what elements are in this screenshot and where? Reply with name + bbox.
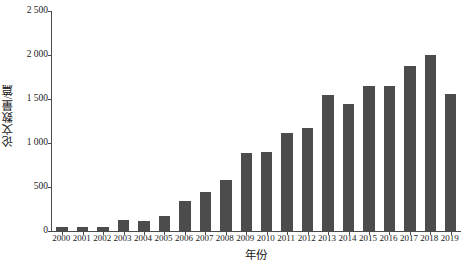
x-tick-label: 2014 [339,234,357,243]
y-axis-tick-labels: 05001 0001 5002 0002 500 [16,0,51,240]
x-tick-label: 2002 [93,234,111,243]
bar [302,128,313,231]
bar [363,86,374,231]
x-tick-label: 2019 [441,234,459,243]
x-tick-label: 2013 [318,234,336,243]
y-tick-label: 1 000 [27,138,48,148]
x-axis-tick-labels: 2000200120022003200420052006200720082009… [51,234,461,248]
x-tick-label: 2005 [154,234,172,243]
bar [138,221,149,231]
x-tick-label: 2008 [216,234,234,243]
x-tick-label: 2018 [420,234,438,243]
plot-area [51,11,461,232]
bar [425,55,436,231]
bar [343,104,354,231]
bar [281,133,292,231]
x-tick-label: 2017 [400,234,418,243]
y-axis-title-text: 论文数量/篇 [3,84,15,147]
x-tick-label: 2006 [175,234,193,243]
x-tick-label: 2010 [257,234,275,243]
bar [179,201,190,231]
x-tick-label: 2011 [277,234,295,243]
y-tick-label: 2 000 [27,50,48,60]
x-tick-label: 2007 [195,234,213,243]
x-tick-label: 2012 [298,234,316,243]
bar [404,66,415,231]
x-axis-title: 年份 [51,250,461,262]
x-tick-label: 2001 [73,234,91,243]
bars-layer [52,11,461,231]
bar [322,95,333,231]
x-tick-label: 2015 [359,234,377,243]
x-tick-label: 2003 [114,234,132,243]
y-tick-label: 2 500 [27,6,48,16]
x-tick-label: 2004 [134,234,152,243]
y-tick-mark [48,55,52,56]
bar [261,152,272,231]
bar-chart-figure: 论文数量/篇 05001 0001 5002 0002 500 20002001… [0,0,467,270]
bar [159,216,170,231]
y-tick-label: 1 500 [27,94,48,104]
bar [200,192,211,231]
bar [384,86,395,231]
y-tick-mark [48,99,52,100]
x-tick-label: 2016 [379,234,397,243]
x-tick-label: 2000 [52,234,70,243]
bar [445,94,456,231]
y-tick-mark [48,187,52,188]
bar [241,153,252,231]
y-tick-mark [48,143,52,144]
y-tick-label: 500 [34,182,48,192]
y-tick-mark [48,11,52,12]
bar [220,180,231,231]
y-tick-mark [48,231,52,232]
x-tick-label: 2009 [236,234,254,243]
bar [118,220,129,231]
